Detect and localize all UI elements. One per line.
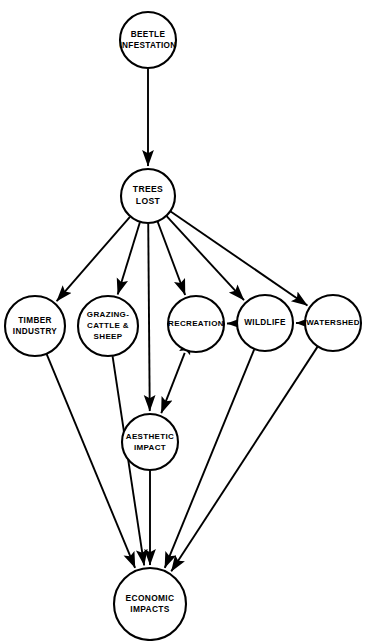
node-shape-economic-impacts bbox=[114, 568, 186, 640]
edge-watershed-to-economic bbox=[171, 347, 317, 571]
node-watershed[interactable]: WATERSHED bbox=[305, 295, 361, 351]
node-trees-lost[interactable]: TREESLOST bbox=[121, 169, 175, 223]
node-shape-grazing-cattle-sheep bbox=[78, 296, 138, 356]
node-grazing-cattle-sheep[interactable]: GRAZING-CATTLE &SHEEP bbox=[78, 296, 138, 356]
node-aesthetic-impact[interactable]: AESTHETICIMPACT bbox=[122, 414, 178, 470]
node-shape-timber-industry bbox=[5, 296, 65, 356]
edge-wildlife-to-economic bbox=[165, 349, 254, 568]
node-economic-impacts[interactable]: ECONOMICIMPACTS bbox=[114, 568, 186, 640]
node-shape-wildlife bbox=[237, 295, 293, 351]
node-shape-beetle-infestation bbox=[120, 12, 176, 68]
edge-recreation-aesthetic bbox=[161, 353, 184, 413]
diagram-canvas: BEETLEINFESTATIONTREESLOSTTIMBERINDUSTRY… bbox=[0, 0, 374, 641]
edge-timber-to-economic bbox=[47, 354, 135, 568]
node-shape-trees-lost bbox=[121, 169, 175, 223]
node-beetle-infestation[interactable]: BEETLEINFESTATION bbox=[119, 12, 176, 68]
causal-diagram: BEETLEINFESTATIONTREESLOSTTIMBERINDUSTRY… bbox=[0, 0, 374, 641]
node-shape-watershed bbox=[305, 295, 361, 351]
node-shape-aesthetic-impact bbox=[122, 414, 178, 470]
node-timber-industry[interactable]: TIMBERINDUSTRY bbox=[5, 296, 65, 356]
edge-trees-to-watershed bbox=[171, 212, 308, 306]
nodes-layer: BEETLEINFESTATIONTREESLOSTTIMBERINDUSTRY… bbox=[5, 12, 361, 640]
node-recreation[interactable]: RECREATION bbox=[168, 296, 224, 352]
edge-trees-to-grazing bbox=[118, 222, 140, 294]
node-shape-recreation bbox=[168, 296, 224, 352]
node-wildlife[interactable]: WILDLIFE bbox=[237, 295, 293, 351]
edge-trees-to-aesthetic bbox=[148, 224, 150, 412]
edge-trees-to-wildlife bbox=[167, 216, 244, 300]
